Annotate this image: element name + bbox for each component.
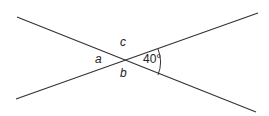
line-1 [17, 17, 256, 112]
label-a: a [95, 52, 102, 66]
line-2 [16, 13, 258, 99]
angle-diagram: a c b 40° [0, 0, 269, 116]
angle-label: 40° [143, 52, 161, 66]
label-c: c [120, 35, 126, 49]
label-b: b [120, 66, 127, 80]
lines-svg [0, 0, 269, 116]
